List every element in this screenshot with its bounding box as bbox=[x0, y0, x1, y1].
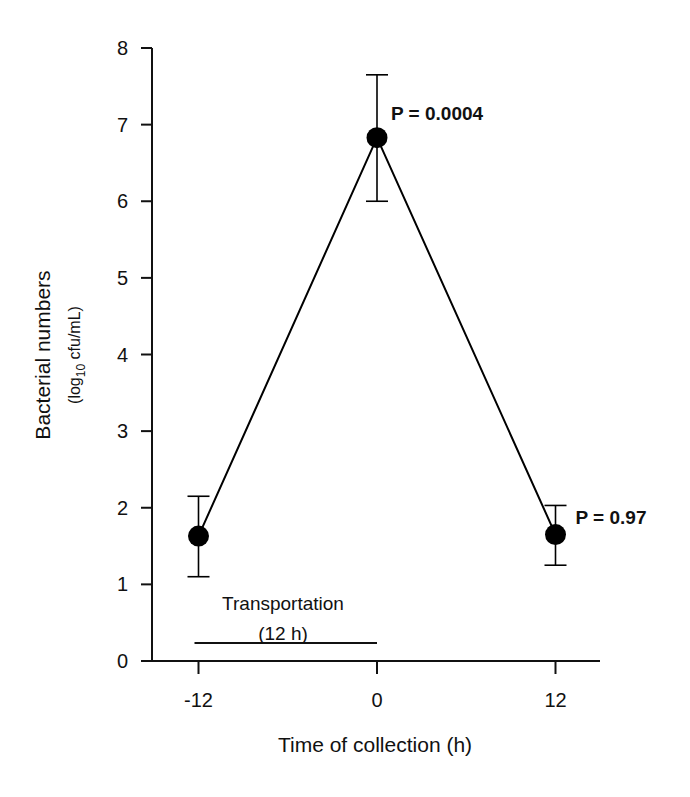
y-tick-label: 1 bbox=[117, 573, 128, 595]
y-axis-title: Bacterial numbers bbox=[31, 270, 54, 439]
y-subtitle-sub: 10 bbox=[74, 364, 88, 378]
x-axis: -12012 bbox=[142, 661, 600, 711]
x-axis-title: Time of collection (h) bbox=[278, 733, 472, 756]
y-subtitle-post: cfu/mL) bbox=[66, 306, 83, 364]
transportation-label: Transportation bbox=[222, 593, 344, 614]
y-tick-label: 6 bbox=[117, 190, 128, 212]
y-tick-label: 7 bbox=[117, 114, 128, 136]
x-tick-label: -12 bbox=[184, 689, 213, 711]
y-tick-label: 8 bbox=[117, 37, 128, 59]
data-point-marker bbox=[367, 127, 388, 148]
p-value-annotation-12h: P = 0.97 bbox=[576, 507, 647, 528]
data-series bbox=[188, 75, 567, 577]
y-tick-label: 5 bbox=[117, 267, 128, 289]
y-tick-label: 3 bbox=[117, 420, 128, 442]
x-tick-label: 0 bbox=[371, 689, 382, 711]
y-subtitle-pre: (log bbox=[66, 377, 83, 404]
y-axis-subtitle-group: (log10 cfu/mL) bbox=[66, 306, 88, 404]
y-axis-subtitle: (log10 cfu/mL) bbox=[66, 306, 88, 404]
y-axis-title-group: Bacterial numbers bbox=[31, 270, 54, 439]
y-axis: 012345678 bbox=[117, 37, 152, 672]
y-tick-label: 0 bbox=[117, 650, 128, 672]
transportation-duration-label: (12 h) bbox=[258, 623, 308, 644]
p-value-annotation-0h: P = 0.0004 bbox=[391, 103, 484, 124]
data-point-marker bbox=[545, 524, 566, 545]
y-tick-label: 4 bbox=[117, 344, 128, 366]
chart: 012345678 -12012 P = 0.0004P = 0.97Trans… bbox=[0, 0, 690, 797]
annotations: P = 0.0004P = 0.97Transportation(12 h) bbox=[195, 103, 647, 644]
y-tick-label: 2 bbox=[117, 497, 128, 519]
data-point-marker bbox=[188, 526, 209, 547]
x-tick-label: 12 bbox=[544, 689, 566, 711]
